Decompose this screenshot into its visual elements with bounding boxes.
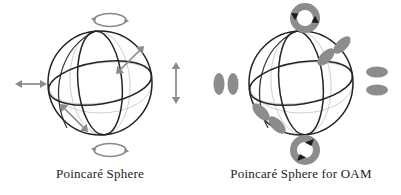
poincare-sphere-diagram [0,0,200,166]
bottom-ring-mode [294,139,317,162]
poincare-sphere-figure: Poincaré Sphere [0,0,401,195]
caption-poincare-sphere: Poincaré Sphere [0,166,200,182]
poincare-sphere-oam-diagram [201,0,401,166]
right-lobe-pair [366,67,388,96]
panel-poincare-sphere-for-oam: Poincaré Sphere for OAM [201,0,401,195]
left-lobe-pair [214,73,239,95]
bottom-circular-arrow [91,144,129,157]
top-circular-arrow [91,14,129,27]
left-horizontal-arrow [15,80,47,88]
right-vertical-arrow [172,62,180,104]
sphere-light-guides [46,29,155,137]
top-ring-mode [291,7,319,30]
caption-poincare-sphere-for-oam: Poincaré Sphere for OAM [201,166,401,182]
panel-poincare-sphere: Poincaré Sphere [0,0,200,195]
